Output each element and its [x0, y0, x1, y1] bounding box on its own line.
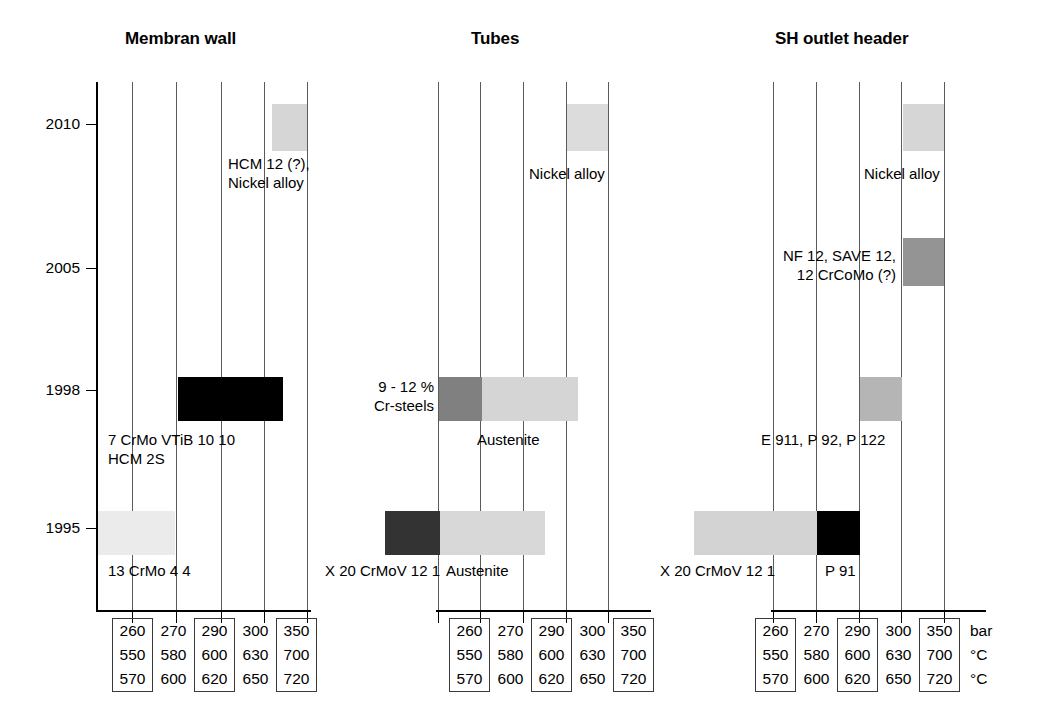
x-axis-line-membran	[96, 610, 311, 612]
legend-cell-pressure: 290	[532, 619, 571, 643]
legend-cell-pressure: 260	[450, 619, 489, 643]
annotation-membran-13crmo: 13 CrMo 4 4	[108, 561, 191, 580]
legend-column-sh-3: 290 600 620	[837, 618, 878, 692]
y-tick-1998	[86, 390, 97, 391]
legend-cell-temp1: 550	[450, 643, 489, 667]
legend-column-membran-1: 260 550 570	[112, 618, 153, 692]
bar-tubes-1995-austenite	[440, 511, 545, 555]
annotation-sh-x20: X 20 CrMoV 12 1	[660, 561, 775, 580]
annotation-tubes-austenite-1995: Austenite	[446, 561, 509, 580]
legend-column-membran-5: 350 700 720	[276, 618, 317, 692]
legend-cell-pressure: 300	[572, 619, 613, 643]
panel-title-membran-wall: Membran wall	[125, 29, 236, 49]
legend-table-tubes: 260 550 570 270 580 600 290 600 620 300 …	[449, 618, 654, 692]
legend-cell-temp2: 720	[277, 667, 316, 691]
legend-column-sh-5: 350 700 720	[919, 618, 960, 692]
y-axis-label-1995: 1995	[8, 519, 80, 537]
bar-sh-2005-nf12	[903, 238, 944, 286]
legend-column-tubes-4: 300 630 650	[572, 618, 613, 692]
legend-cell-pressure: 290	[838, 619, 877, 643]
legend-cell-temp2: 650	[878, 667, 919, 691]
y-axis-label-2010: 2010	[8, 115, 80, 133]
legend-cell-temp1: 700	[277, 643, 316, 667]
legend-cell-temp2: 570	[450, 667, 489, 691]
bar-sh-1995-p91	[817, 511, 860, 555]
bar-membran-1998-7crmo	[178, 377, 283, 421]
annotation-tubes-x20: X 20 CrMoV 12 1	[325, 561, 440, 580]
legend-cell-pressure: 260	[113, 619, 152, 643]
panel-title-sh-outlet-header: SH outlet header	[775, 29, 908, 49]
legend-cell-pressure: 260	[756, 619, 795, 643]
legend-column-tubes-3: 290 600 620	[531, 618, 572, 692]
legend-cell-temp2: 570	[756, 667, 795, 691]
legend-cell-temp2: 570	[113, 667, 152, 691]
legend-cell-temp2: 620	[195, 667, 234, 691]
x-tick-tubes-1	[438, 612, 439, 623]
legend-cell-temp1: 580	[490, 643, 531, 667]
annotation-membran-hcm12: HCM 12 (?), Nickel alloy	[228, 154, 310, 192]
bar-sh-2010-nickel	[903, 104, 944, 151]
annotation-membran-7crmo: 7 CrMo VTiB 10 10 HCM 2S	[108, 430, 235, 468]
annotation-tubes-nickel: Nickel alloy	[529, 164, 605, 183]
gridline-sh-5	[944, 82, 945, 610]
legend-cell-pressure: 270	[153, 619, 194, 643]
legend-column-tubes-1: 260 550 570	[449, 618, 490, 692]
legend-cell-pressure: 290	[195, 619, 234, 643]
legend-cell-temp1: 630	[572, 643, 613, 667]
legend-cell-temp1: 550	[756, 643, 795, 667]
bar-membran-2010-nickel	[272, 104, 307, 151]
legend-cell-temp1: 600	[532, 643, 571, 667]
legend-cell-pressure: 300	[235, 619, 276, 643]
legend-column-sh-1: 260 550 570	[755, 618, 796, 692]
legend-cell-pressure: 350	[614, 619, 653, 643]
y-tick-1995	[86, 528, 97, 529]
annotation-sh-e911: E 911, P 92, P 122	[761, 430, 885, 449]
legend-cell-temp2: 650	[235, 667, 276, 691]
y-axis-label-2005: 2005	[8, 259, 80, 277]
legend-cell-pressure: 350	[277, 619, 316, 643]
legend-cell-temp1: 600	[195, 643, 234, 667]
bar-sh-1998-e911	[860, 377, 902, 421]
annotation-sh-nickel: Nickel alloy	[864, 164, 940, 183]
gridline-membran-3	[221, 82, 222, 610]
legend-cell-temp1: 600	[838, 643, 877, 667]
bar-membran-1995-13crmo	[98, 511, 175, 555]
legend-cell-pressure: 270	[796, 619, 837, 643]
legend-column-tubes-2: 270 580 600	[490, 618, 531, 692]
unit-label-celsius-1: °C	[970, 643, 987, 667]
gridline-tubes-5	[608, 82, 609, 610]
bar-sh-1995-x20	[694, 511, 817, 555]
legend-cell-temp2: 600	[796, 667, 837, 691]
bar-tubes-1998-crsteels	[439, 377, 482, 421]
legend-column-membran-4: 300 630 650	[235, 618, 276, 692]
legend-cell-temp2: 720	[920, 667, 959, 691]
annotation-tubes-crsteels: 9 - 12 % Cr-steels	[326, 377, 434, 415]
legend-cell-temp1: 700	[920, 643, 959, 667]
legend-cell-temp1: 580	[796, 643, 837, 667]
annotation-tubes-austenite-1998: Austenite	[477, 430, 540, 449]
legend-table-sh: 260 550 570 270 580 600 290 600 620 300 …	[755, 618, 960, 692]
legend-column-membran-2: 270 580 600	[153, 618, 194, 692]
legend-column-membran-3: 290 600 620	[194, 618, 235, 692]
bar-tubes-1995-x20	[385, 511, 440, 555]
legend-cell-temp2: 650	[572, 667, 613, 691]
legend-table-membran: 260 550 570 270 580 600 290 600 620 300 …	[112, 618, 317, 692]
panel-title-tubes: Tubes	[471, 29, 519, 49]
unit-label-bar: bar	[970, 619, 992, 643]
legend-cell-temp1: 630	[235, 643, 276, 667]
legend-cell-temp2: 720	[614, 667, 653, 691]
legend-cell-pressure: 350	[920, 619, 959, 643]
annotation-sh-nf12: NF 12, SAVE 12, 12 CrCoMo (?)	[690, 246, 896, 284]
bar-tubes-2010-nickel	[567, 104, 608, 151]
legend-cell-temp2: 600	[490, 667, 531, 691]
unit-label-celsius-2: °C	[970, 667, 987, 691]
legend-column-sh-4: 300 630 650	[878, 618, 919, 692]
legend-column-tubes-5: 350 700 720	[613, 618, 654, 692]
legend-cell-temp2: 620	[838, 667, 877, 691]
y-tick-2005	[86, 268, 97, 269]
legend-cell-temp1: 550	[113, 643, 152, 667]
legend-cell-temp2: 620	[532, 667, 571, 691]
legend-cell-temp1: 630	[878, 643, 919, 667]
x-axis-line-tubes	[436, 610, 651, 612]
annotation-sh-p91: P 91	[825, 561, 856, 580]
